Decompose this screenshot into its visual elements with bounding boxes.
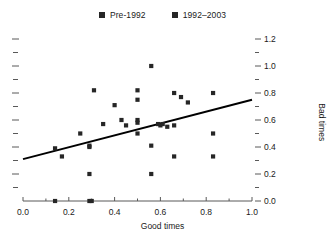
x-tick-label: 0.6	[154, 208, 166, 217]
regression-line	[23, 100, 252, 159]
data-point-marker	[211, 131, 215, 135]
data-point-marker	[165, 125, 169, 129]
data-point-marker	[90, 199, 94, 203]
y-tick-label: 0.2	[264, 170, 276, 179]
x-axis-ticks	[23, 197, 252, 201]
data-point-marker	[172, 91, 176, 95]
x-tick-label: 0.0	[17, 208, 29, 217]
data-point-marker	[135, 88, 139, 92]
y-axis-ticks-left	[12, 39, 19, 188]
data-point-marker	[60, 154, 64, 158]
y-tick-label: 1.2	[264, 35, 276, 44]
data-point-marker	[53, 199, 57, 203]
data-point-marker	[113, 103, 117, 107]
data-point-marker	[78, 131, 82, 135]
data-point-marker	[119, 118, 123, 122]
data-points	[53, 64, 215, 203]
data-point-marker	[149, 144, 153, 148]
data-point-marker	[101, 122, 105, 126]
data-point-marker	[87, 145, 91, 149]
x-tick-label: 0.4	[109, 208, 121, 217]
y-tick-label: 0.6	[264, 116, 276, 125]
data-point-marker	[135, 121, 139, 125]
y-tick-label: 0.0	[264, 197, 276, 206]
data-point-marker	[161, 122, 165, 126]
data-point-marker	[87, 172, 91, 176]
x-axis-title: Good times	[0, 222, 325, 231]
data-point-marker	[172, 154, 176, 158]
y-axis-ticks-right	[255, 39, 261, 201]
data-point-marker	[149, 172, 153, 176]
data-point-marker	[211, 154, 215, 158]
data-point-marker	[172, 123, 176, 127]
data-point-marker	[149, 64, 153, 68]
y-tick-label: 0.4	[264, 143, 276, 152]
data-point-marker	[135, 98, 139, 102]
data-point-marker	[53, 146, 57, 150]
data-point-marker	[92, 88, 96, 92]
y-axis-title: Bad times	[318, 103, 327, 141]
data-point-marker	[124, 123, 128, 127]
x-tick-label: 0.8	[200, 208, 212, 217]
y-tick-label: 1.0	[264, 62, 276, 71]
y-tick-label: 0.8	[264, 89, 276, 98]
data-point-marker	[135, 131, 139, 135]
data-point-marker	[211, 91, 215, 95]
trend-line	[23, 100, 252, 159]
data-point-marker	[179, 95, 183, 99]
x-tick-label: 1.0	[246, 208, 258, 217]
data-point-marker	[186, 100, 190, 104]
x-tick-label: 0.2	[63, 208, 75, 217]
